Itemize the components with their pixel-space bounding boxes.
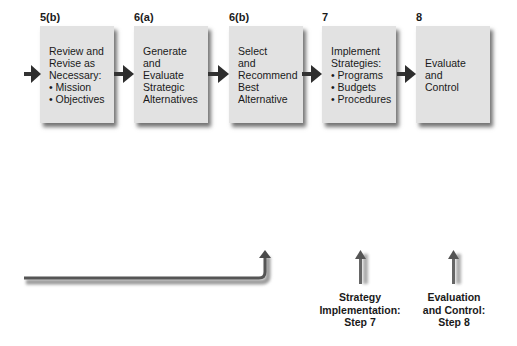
caption-line: Step 7	[315, 316, 405, 329]
bent-up-arrow-icon	[24, 250, 271, 282]
caption-evaluation-control: Evaluation and Control: Step 8	[409, 291, 499, 329]
caption-line: Strategy	[315, 291, 405, 304]
up-arrow-icon	[448, 250, 461, 284]
right-arrow-icon	[24, 65, 416, 83]
caption-line: Implementation:	[315, 304, 405, 317]
caption-line: Evaluation	[409, 291, 499, 304]
caption-line: Step 8	[409, 316, 499, 329]
caption-strategy-implementation: Strategy Implementation: Step 7	[315, 291, 405, 329]
up-arrow-icon	[355, 250, 368, 284]
caption-line: and Control:	[409, 304, 499, 317]
